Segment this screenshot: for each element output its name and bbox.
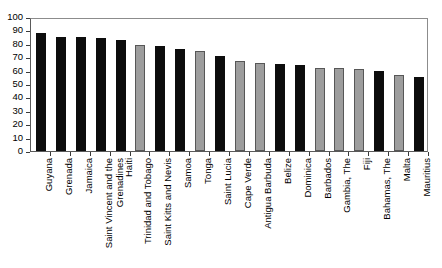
bar	[175, 49, 185, 151]
x-axis-tick-label: Saint Kitts and Nevis	[163, 158, 174, 268]
y-axis-tick-label: 10	[12, 133, 23, 143]
x-axis-tick-label: Malta	[402, 158, 413, 268]
x-axis-tick-label: Grenada	[64, 158, 75, 268]
x-axis-tick-label: Guyana	[44, 158, 55, 268]
x-axis-tick-mark	[130, 152, 131, 156]
y-axis: 1009080706050403020100	[0, 18, 30, 153]
y-axis-tick-mark	[26, 152, 30, 153]
bar	[215, 56, 225, 151]
x-axis-tick-mark	[329, 152, 330, 156]
x-axis-tick-label: Samoa	[183, 158, 194, 268]
x-axis-tick-label: Haiti	[124, 158, 135, 268]
bar	[315, 68, 325, 151]
x-axis-tick-mark	[408, 152, 409, 156]
x-axis-tick-label: Dominica	[303, 158, 314, 268]
x-axis-tick-label: Bahamas, The	[382, 158, 393, 268]
bar	[255, 63, 265, 151]
x-axis-tick-mark	[149, 152, 150, 156]
x-axis-tick-label: Cape Verde	[243, 158, 254, 268]
x-axis-tick-label: Jamaica	[84, 158, 95, 268]
x-axis-tick-label: Tonga	[203, 158, 214, 268]
x-axis-tick-mark	[388, 152, 389, 156]
x-axis-tick-mark	[50, 152, 51, 156]
bar	[235, 61, 245, 151]
x-axis-tick-label: Barbados	[323, 158, 334, 268]
y-axis-tick-label: 40	[12, 92, 23, 102]
y-axis-tick-label: 100	[7, 12, 23, 22]
bar-chart: 1009080706050403020100 GuyanaGrenadaJama…	[0, 0, 442, 268]
x-axis-tick-mark	[309, 152, 310, 156]
bar	[96, 38, 106, 151]
bar	[394, 75, 404, 151]
x-axis-tick-mark	[249, 152, 250, 156]
x-axis-tick-label: Saint Lucia	[223, 158, 234, 268]
y-axis-tick-label: 50	[12, 79, 23, 89]
x-axis-tick-mark	[169, 152, 170, 156]
plot-area	[30, 18, 428, 152]
bar	[295, 65, 305, 151]
x-axis-tick-mark	[70, 152, 71, 156]
x-axis-tick-mark	[209, 152, 210, 156]
x-axis-tick-label: Saint Vincent and the Grenadines	[104, 158, 125, 268]
x-axis-tick-label: Fiji	[362, 158, 373, 268]
y-axis-tick-label: 20	[12, 119, 23, 129]
x-axis-tick-mark	[348, 152, 349, 156]
bar	[76, 37, 86, 151]
y-axis-tick-label: 0	[18, 146, 23, 156]
x-axis-tick-mark	[428, 152, 429, 156]
bar	[135, 45, 145, 151]
x-axis-tick-label: Gambia, The	[342, 158, 353, 268]
bar	[354, 69, 364, 151]
x-axis-tick-mark	[269, 152, 270, 156]
bar	[195, 51, 205, 152]
x-axis-tick-label: Belize	[283, 158, 294, 268]
bar	[155, 46, 165, 151]
bar	[56, 37, 66, 151]
y-axis-tick-label: 90	[12, 25, 23, 35]
y-axis-tick-label: 30	[12, 106, 23, 116]
bar	[275, 64, 285, 151]
x-axis-tick-mark	[368, 152, 369, 156]
x-axis-tick-mark	[289, 152, 290, 156]
x-axis-tick-mark	[229, 152, 230, 156]
y-axis-tick-label: 60	[12, 66, 23, 76]
x-axis-tick-label: Antigua Barbuda	[263, 158, 274, 268]
bar	[36, 33, 46, 151]
bar	[414, 77, 424, 151]
x-axis-tick-mark	[90, 152, 91, 156]
bar	[374, 71, 384, 151]
bar	[334, 68, 344, 151]
x-axis-tick-label: Trinidad and Tobago	[143, 158, 154, 268]
x-axis-tick-mark	[189, 152, 190, 156]
x-axis-tick-label: Mauritius	[422, 158, 433, 268]
bar	[116, 40, 126, 151]
x-axis-tick-mark	[110, 152, 111, 156]
y-axis-tick-label: 80	[12, 39, 23, 49]
y-axis-tick-label: 70	[12, 52, 23, 62]
